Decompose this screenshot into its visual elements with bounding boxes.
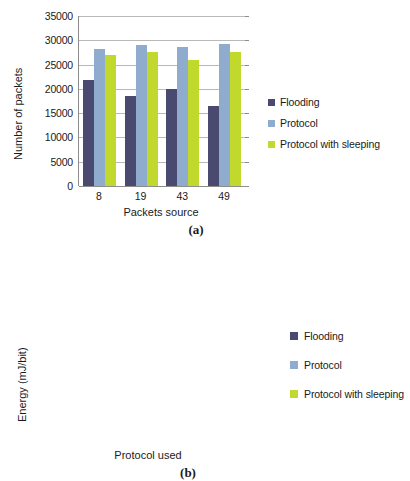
gridline [79, 186, 245, 187]
legend-label: Protocol with sleeping [280, 138, 380, 150]
x-axis-title-b: Protocol used [114, 449, 181, 461]
y-tick-label: 25000 [45, 59, 73, 71]
legend-item: Protocol [290, 359, 404, 371]
x-tick-label: 43 [177, 190, 189, 202]
tick-mark [245, 89, 249, 90]
legend-item: Protocol with sleeping [290, 388, 404, 400]
x-tick-label: 49 [218, 190, 230, 202]
tick-mark [245, 113, 249, 114]
legend-swatch-icon [290, 390, 298, 398]
bar [105, 55, 116, 186]
tick-mark [245, 186, 249, 187]
tick-mark [245, 40, 249, 41]
x-tick-label: 19 [135, 190, 147, 202]
legend-label: Protocol with sleeping [304, 388, 404, 400]
y-axis-title-b: Energy (mJ/bit) [16, 347, 28, 422]
legend-item: Protocol with sleeping [268, 138, 380, 150]
x-tick-label: 8 [96, 190, 102, 202]
bar [147, 52, 158, 186]
tick-mark [245, 162, 249, 163]
legend-swatch-icon [268, 141, 275, 148]
legend-label: Protocol [304, 359, 342, 371]
tick-mark [245, 16, 249, 17]
legend-item: Flooding [268, 96, 380, 108]
y-tick-label: 5000 [50, 156, 73, 168]
bar [83, 80, 94, 186]
figure-caption-a: (a) [188, 222, 203, 238]
bar [188, 60, 199, 186]
bar-group [204, 16, 246, 186]
figure-caption-b: (b) [180, 465, 196, 481]
y-tick-label: 30000 [45, 34, 73, 46]
bar [136, 45, 147, 186]
bar [208, 106, 219, 186]
bar-group [79, 16, 121, 186]
bar-group-container-a [79, 16, 245, 186]
y-tick-label: 20000 [45, 83, 73, 95]
y-axis-title-a: Number of packets [12, 68, 24, 160]
bar [230, 52, 241, 186]
legend-label: Protocol [280, 117, 318, 129]
bar-group [162, 16, 204, 186]
bar [94, 49, 105, 186]
legend-swatch-icon [290, 332, 298, 340]
plot-area-a [78, 16, 245, 186]
tick-mark [245, 65, 249, 66]
figure-b: Energy (mJ/bit) 00.10.20.30.40.50.6 Prot… [0, 240, 410, 481]
bar [177, 47, 188, 186]
y-tick-label: 10000 [45, 131, 73, 143]
bar [166, 89, 177, 186]
legend-b: FloodingProtocolProtocol with sleeping [290, 330, 404, 417]
bar-group [121, 16, 163, 186]
x-axis-title-a: Packets source [123, 206, 198, 218]
legend-item: Flooding [290, 330, 404, 342]
tick-mark [245, 137, 249, 138]
legend-swatch-icon [268, 120, 275, 127]
y-tick-label: 0 [67, 180, 73, 192]
y-tick-label: 35000 [45, 10, 73, 22]
bar [125, 96, 136, 186]
legend-label: Flooding [280, 96, 319, 108]
legend-item: Protocol [268, 117, 380, 129]
legend-label: Flooding [304, 330, 343, 342]
y-tick-label: 15000 [45, 107, 73, 119]
legend-swatch-icon [290, 361, 298, 369]
legend-a: FloodingProtocolProtocol with sleeping [268, 96, 380, 159]
legend-swatch-icon [268, 99, 275, 106]
bar [219, 44, 230, 186]
figure-a: Number of packets 0500010000150002000025… [0, 0, 410, 240]
